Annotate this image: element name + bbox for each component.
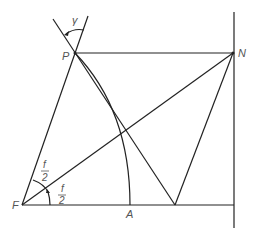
label-f: F	[12, 199, 20, 211]
upper-fraction-denominator: 2	[41, 172, 48, 183]
line-n-base	[175, 53, 233, 205]
lower-half-angle-arc	[48, 192, 50, 205]
line-f-n	[22, 53, 233, 205]
lower-fraction-denominator: 2	[58, 195, 65, 206]
point-p	[74, 52, 77, 55]
lower-fraction-numerator: f	[61, 183, 65, 194]
label-p: P	[62, 50, 70, 62]
line-f-p	[22, 16, 88, 205]
upper-fraction-numerator: f	[43, 159, 47, 170]
geometry-diagram: γ P N F A f 2 f 2	[0, 0, 257, 228]
point-n	[232, 52, 235, 55]
label-n: N	[238, 47, 246, 59]
gamma-arrow-icon	[64, 31, 69, 36]
arc-p-a	[75, 53, 130, 205]
label-gamma: γ	[72, 14, 79, 26]
label-a: A	[125, 208, 133, 220]
